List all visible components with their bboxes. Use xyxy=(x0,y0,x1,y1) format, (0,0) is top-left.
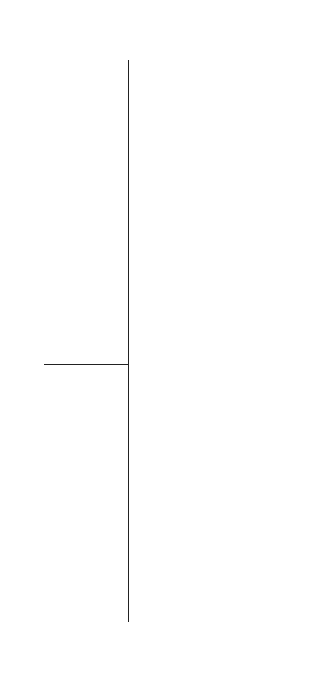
station-trunk xyxy=(128,60,129,622)
president-stem xyxy=(44,364,129,365)
org-chart xyxy=(0,0,331,686)
